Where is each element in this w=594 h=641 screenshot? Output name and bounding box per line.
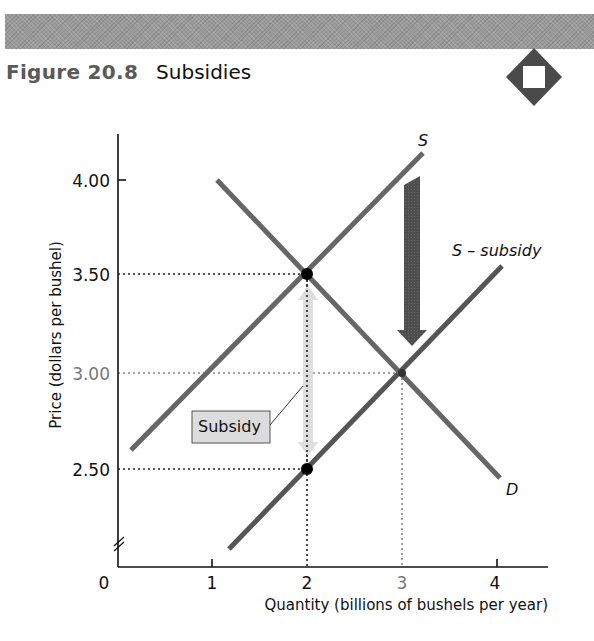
y-tick-4-00: 4.00 [72,171,110,191]
point-price-paid [301,463,313,475]
chart: Subsidy 4.00 3.50 3.00 2.50 0 1 2 3 4 Qu… [0,0,594,641]
y-tick-3-50: 3.50 [72,265,110,285]
supply-curve [131,153,423,450]
x-tick-1: 1 [207,573,218,593]
subsidy-label: Subsidy [198,417,261,436]
point-no-subsidy-equilibrium [398,369,406,377]
x-tick-3: 3 [397,573,408,593]
axis-break-1 [114,537,124,546]
subsidy-double-arrow [298,286,318,456]
s-curve-label: S [418,131,428,150]
x-axis-label: Quantity (billions of bushels per year) [265,596,548,614]
x-tick-0: 0 [99,573,110,593]
y-tick-3-00: 3.00 [72,364,110,384]
supply-shift-arrow [397,176,427,346]
x-tick-2: 2 [302,573,313,593]
y-axis-label: Price (dollars per bushel) [47,241,65,428]
s-subsidy-curve-label: S – subsidy [452,241,542,260]
axis-break-2 [114,542,124,551]
subsidy-leader-line [270,386,303,425]
d-curve-label: D [506,480,518,499]
axes [114,134,548,567]
point-price-received [301,268,313,280]
x-tick-4: 4 [490,573,501,593]
y-tick-2-50: 2.50 [72,460,110,480]
